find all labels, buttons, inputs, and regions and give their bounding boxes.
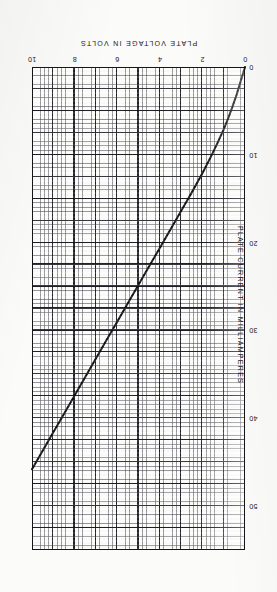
xtick-label-8: 8 [72,55,76,63]
ytick-label-30: 30 [249,327,258,335]
x-axis-title: PLATE VOLTAGE IN VOLTS [32,39,245,47]
ytick-label-50: 50 [249,502,258,510]
plot-border [32,67,245,550]
y-axis-title: PLATE CURRENT IN MILLIAMPERES [236,205,244,405]
xtick-label-0: 0 [243,55,247,63]
ytick-label-10: 10 [249,151,258,159]
ytick-label-0: 0 [249,63,253,71]
xtick-label-2: 2 [200,55,204,63]
rotated-figure: 0 2 4 6 8 10 0 10 20 30 40 50 PLATE VOLT… [0,0,277,592]
xtick-label-4: 4 [158,55,162,63]
plot-area [32,67,245,550]
ytick-label-40: 40 [249,414,258,422]
scanned-page-background: 0 2 4 6 8 10 0 10 20 30 40 50 PLATE VOLT… [0,0,277,592]
ytick-label-20: 20 [249,239,258,247]
xtick-label-10: 10 [28,55,37,63]
xtick-label-6: 6 [115,55,119,63]
